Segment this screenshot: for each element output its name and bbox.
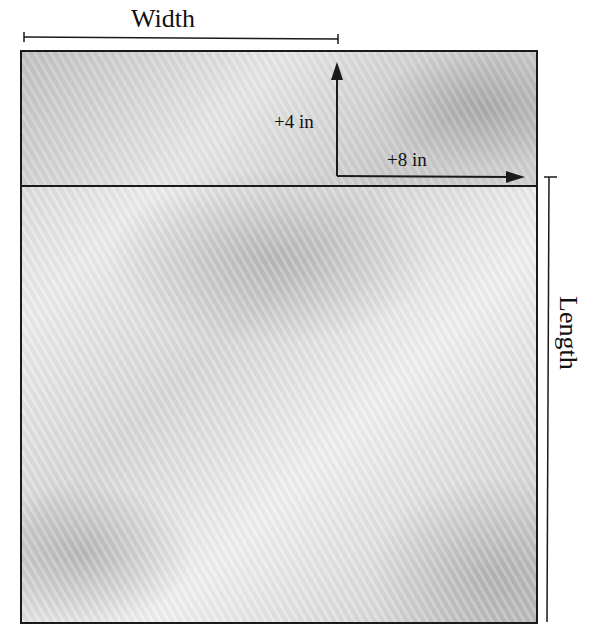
- height-increase-label: +4 in: [274, 111, 314, 133]
- length-bracket: [544, 177, 557, 622]
- width-increase-label: +8 in: [387, 149, 427, 171]
- up-arrow-icon: [331, 62, 343, 176]
- width-label: Width: [131, 4, 195, 34]
- length-label: Length: [553, 296, 583, 370]
- diagram-canvas: Width +4 in +8 in Length: [0, 0, 593, 639]
- dimension-lines: [0, 0, 593, 639]
- right-arrow-icon: [337, 171, 525, 183]
